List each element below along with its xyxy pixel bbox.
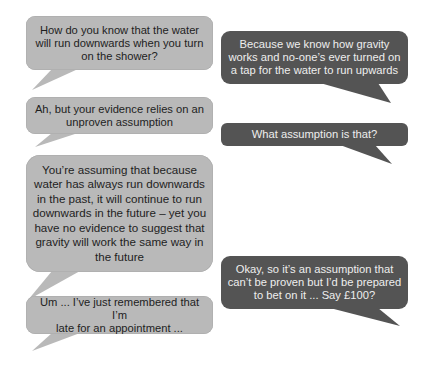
speech-bubble-left-1: How do you know that the water will run … [26, 16, 213, 70]
bubble-text: Ah, but your evidence relies on an unpro… [35, 103, 204, 129]
bubble-tail-right-1 [320, 83, 391, 103]
speech-bubble-left-4: Um ... I’ve just remembered that I’m lat… [26, 296, 213, 334]
bubble-text: Because we know how gravity works and no… [228, 38, 400, 77]
speech-bubble-left-3: You’re assuming that because water has a… [26, 155, 213, 272]
bubble-tail-left-1 [32, 69, 78, 90]
bubble-text: Um ... I’ve just remembered that I’m lat… [32, 296, 207, 335]
bubble-tail-right-2 [340, 145, 392, 164]
speech-bubble-right-3: Okay, so it’s an assumption that can’t b… [221, 256, 408, 309]
bubble-text: What assumption is that? [252, 128, 378, 141]
speech-bubble-left-2: Ah, but your evidence relies on an unpro… [26, 97, 213, 134]
speech-bubble-right-1: Because we know how gravity works and no… [221, 31, 408, 84]
bubble-tail-left-2 [35, 133, 78, 147]
bubble-text: Okay, so it’s an assumption that can’t b… [228, 263, 402, 302]
speech-bubble-right-2: What assumption is that? [221, 123, 408, 146]
bubble-tail-left-4 [32, 333, 80, 351]
bubble-text: You’re assuming that because water has a… [33, 163, 206, 265]
bubble-tail-right-3 [330, 308, 400, 326]
bubble-text: How do you know that the water will run … [36, 24, 204, 63]
